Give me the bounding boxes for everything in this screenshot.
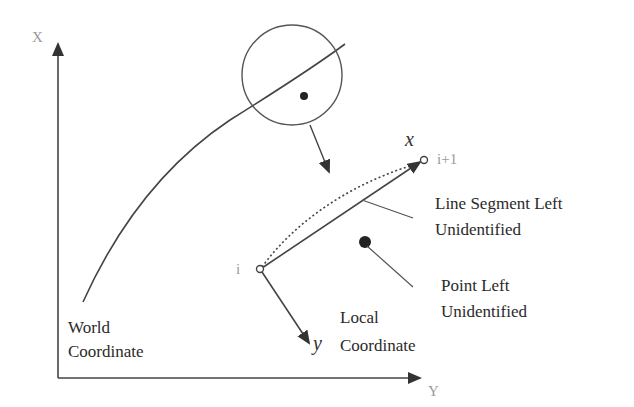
node-i bbox=[257, 266, 264, 273]
world-x-axis-label: X bbox=[32, 26, 43, 49]
point-label-line1: Point Left bbox=[441, 274, 509, 297]
local-x-axis bbox=[262, 162, 420, 268]
magnifier-dot bbox=[300, 92, 308, 100]
local-coordinate-label-line1: Local bbox=[340, 306, 379, 329]
point-leader bbox=[367, 246, 413, 287]
segment-leader bbox=[362, 200, 413, 218]
segment-label-line2: Unidentified bbox=[435, 218, 521, 241]
point-label-line2: Unidentified bbox=[441, 300, 527, 323]
local-x-label: x bbox=[405, 128, 414, 151]
world-y-axis-label: Y bbox=[428, 380, 439, 403]
node-i-label: i bbox=[236, 258, 240, 281]
segment-label-line1: Line Segment Left bbox=[435, 192, 562, 215]
magnifier-circle bbox=[242, 25, 342, 125]
node-i1-label: i+1 bbox=[437, 148, 457, 171]
node-i1 bbox=[421, 157, 428, 164]
zoom-arrow bbox=[310, 125, 329, 172]
world-coordinate-label-line2: Coordinate bbox=[68, 340, 144, 363]
local-y-label: y bbox=[313, 332, 322, 355]
unidentified-point bbox=[359, 236, 371, 248]
local-y-axis bbox=[262, 272, 309, 343]
world-curve bbox=[83, 44, 345, 302]
world-coordinate-label-line1: World bbox=[68, 316, 110, 339]
local-coordinate-label-line2: Coordinate bbox=[340, 334, 416, 357]
